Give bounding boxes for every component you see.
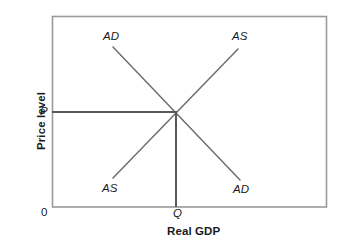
as-curve-label-bottom: AS — [102, 183, 118, 195]
ad-curve-label-top: AD — [103, 31, 119, 43]
y-axis-title: Price level — [36, 92, 48, 150]
as-curve-label-top: AS — [232, 31, 248, 43]
ad-curve-label-bottom: AD — [233, 184, 249, 196]
axis-origin-label: 0 — [41, 207, 47, 219]
x-axis-tick-label-q: Q — [173, 208, 182, 220]
ad-as-diagram: AD AS AS AD P Q 0 Real GDP Price level — [0, 0, 340, 250]
diagram-canvas — [0, 0, 340, 250]
x-axis-title: Real GDP — [167, 226, 220, 238]
